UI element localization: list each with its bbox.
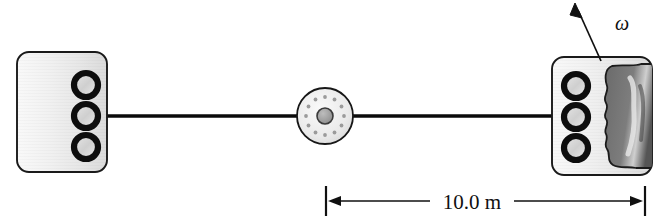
- pulley-bolt: [314, 98, 318, 102]
- shaded-region: [605, 64, 655, 168]
- ring-hole: [74, 73, 98, 97]
- left-block: [17, 52, 107, 172]
- pulley-bolt: [340, 105, 344, 109]
- diagram-canvas: ω 10.0 m: [0, 0, 655, 222]
- ring-hole: [74, 104, 98, 128]
- pulley-bolt: [340, 124, 344, 128]
- physics-figure: ω 10.0 m: [0, 0, 655, 222]
- dimension-10m: 10.0 m: [326, 186, 645, 216]
- pulley-hub: [317, 108, 333, 124]
- ring-hole: [74, 135, 98, 159]
- dimension-label: 10.0 m: [443, 190, 501, 214]
- pulley-bolt: [323, 95, 327, 99]
- pulley-bolt: [323, 133, 327, 137]
- omega-arrow-head: [570, 3, 582, 18]
- dimension-arrowhead-left: [328, 196, 341, 206]
- ring-hole: [564, 105, 588, 129]
- pulley: [297, 88, 353, 144]
- ring-hole: [564, 136, 588, 160]
- pulley-bolt: [314, 131, 318, 135]
- pulley-bolt: [307, 124, 311, 128]
- pulley-bolt: [342, 114, 346, 118]
- ring-hole: [564, 74, 588, 98]
- angular-velocity-annotation: ω: [570, 3, 629, 61]
- pulley-bolt: [333, 98, 337, 102]
- left-block-rings: [74, 73, 98, 159]
- right-block: [552, 57, 655, 175]
- pulley-bolt: [307, 105, 311, 109]
- right-block-rings: [564, 74, 588, 160]
- pulley-bolt: [304, 114, 308, 118]
- omega-label: ω: [615, 12, 629, 34]
- dimension-arrowhead-right: [630, 196, 643, 206]
- pulley-bolt: [333, 131, 337, 135]
